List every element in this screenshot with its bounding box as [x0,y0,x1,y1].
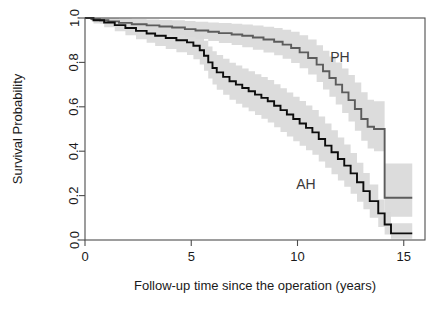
y-tick-label-0: 0.0 [67,231,82,249]
survival-plot-figure: 0510150.00.20.40.60.81.0 PHAH Follow-up … [0,0,444,309]
x-axis-title: Follow-up time since the operation (year… [134,278,376,293]
y-tick-label-1: 1.0 [67,9,82,27]
y-tick-label-0-8: 0.8 [67,53,82,71]
confidence-band-group [85,18,412,239]
tick-label-group: 0510150.00.20.40.60.81.0 [67,9,411,264]
y-axis-title: Survival Probability [10,73,25,184]
series-label-ph: PH [330,49,349,65]
y-tick-label-0-2: 0.2 [67,187,82,205]
x-tick-label-0: 0 [81,249,88,264]
series-label-ah: AH [296,176,315,192]
y-tick-label-0-4: 0.4 [67,142,82,160]
x-tick-label-10: 10 [290,249,304,264]
y-tick-label-0-6: 0.6 [67,98,82,116]
x-tick-label-15: 15 [397,249,411,264]
x-tick-label-5: 5 [188,249,195,264]
chart-canvas: 0510150.00.20.40.60.81.0 PHAH Follow-up … [0,0,444,309]
